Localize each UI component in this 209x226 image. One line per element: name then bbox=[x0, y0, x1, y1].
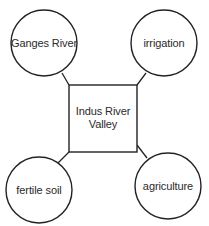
node-label-ganges-river: Ganges River bbox=[11, 37, 77, 50]
connector-top-left bbox=[62, 73, 69, 85]
connector-bottom-right bbox=[137, 145, 147, 158]
connector-bottom-left bbox=[58, 152, 69, 163]
connector-top-right bbox=[137, 73, 146, 85]
concept-map-diagram: Indus River Valley Ganges River irrigati… bbox=[0, 0, 209, 226]
node-label-fertile-soil: fertile soil bbox=[16, 184, 61, 197]
center-label: Indus River Valley bbox=[70, 105, 136, 131]
center-label-line1: Indus River bbox=[70, 105, 136, 118]
center-label-line2: Valley bbox=[70, 118, 136, 131]
node-label-irrigation: irrigation bbox=[143, 37, 184, 50]
node-label-agriculture: agriculture bbox=[143, 180, 193, 193]
